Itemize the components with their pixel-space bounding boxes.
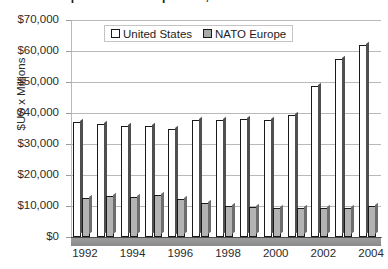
bar-nato-europe — [368, 206, 376, 237]
legend-swatch-icon-united-states — [111, 29, 120, 38]
x-axis-tick-label: 2000 — [254, 247, 298, 259]
bar-group — [97, 20, 121, 237]
x-axis-tick-label: 1996 — [158, 247, 202, 259]
bar-group — [216, 20, 240, 237]
y-axis-tick-label: $60,000 — [0, 44, 59, 56]
bar-united-states — [216, 120, 224, 237]
bar-nato-europe — [297, 208, 305, 237]
x-axis-tick-label: 2002 — [301, 247, 345, 259]
legend-label-nato-europe: NATO Europe — [215, 28, 286, 40]
legend-item-united-states: United States — [111, 28, 192, 40]
bar-united-states — [335, 59, 343, 237]
bar-united-states — [168, 129, 176, 238]
bar-group — [311, 20, 335, 237]
bar-group — [264, 20, 288, 237]
bar-group — [288, 20, 312, 237]
bar-nato-europe — [344, 208, 352, 237]
bar-united-states — [264, 120, 272, 237]
bar-united-states — [121, 126, 129, 237]
legend-item-nato-europe: NATO Europe — [203, 28, 286, 40]
bar-series-container — [71, 20, 381, 237]
chart-floor-base — [71, 237, 382, 246]
bar-united-states — [288, 115, 296, 237]
bar-nato-europe — [201, 203, 209, 237]
legend-swatch-icon-nato-europe — [203, 29, 212, 38]
bar-nato-europe — [249, 207, 257, 237]
bar-nato-europe — [273, 208, 281, 237]
bar-united-states — [359, 45, 367, 237]
bar-nato-europe — [106, 196, 114, 237]
bar-group — [73, 20, 97, 237]
bar-united-states — [97, 124, 105, 237]
bar-united-states — [192, 120, 200, 237]
bar-group — [335, 20, 359, 237]
x-axis-tick-label: 2004 — [349, 247, 388, 259]
y-axis-tick-label: $30,000 — [0, 137, 59, 149]
bar-nato-europe — [177, 199, 185, 237]
bar-group — [192, 20, 216, 237]
y-axis-tick-label: $70,000 — [0, 13, 59, 25]
y-axis-tick-label: $0 — [0, 230, 59, 242]
y-axis-tick-label: $50,000 — [0, 75, 59, 87]
bar-united-states — [145, 126, 153, 237]
bar-united-states — [311, 86, 319, 237]
chart-legend: United States NATO Europe — [104, 25, 293, 42]
bar-united-states — [73, 122, 81, 237]
bar-nato-europe — [320, 208, 328, 237]
bar-group — [359, 20, 383, 237]
bar-united-states — [240, 119, 248, 237]
bar-group — [145, 20, 169, 237]
bar-group — [168, 20, 192, 237]
bar-group — [240, 20, 264, 237]
x-axis-tick-label: 1998 — [206, 247, 250, 259]
bar-chart: $US x Millions $0$10,000$20,000$30,000$4… — [0, 0, 388, 269]
x-axis-tick-label: 1992 — [63, 247, 107, 259]
x-axis-tick-label: 1994 — [111, 247, 155, 259]
y-axis-tick-label: $20,000 — [0, 168, 59, 180]
bar-group — [121, 20, 145, 237]
legend-label-united-states: United States — [123, 28, 192, 40]
y-axis-tick-label: $10,000 — [0, 199, 59, 211]
bar-nato-europe — [154, 195, 162, 237]
x-axis-tick-labels: 1992199419961998200020022004 — [71, 247, 381, 265]
y-axis-tick-label: $40,000 — [0, 106, 59, 118]
bar-nato-europe — [82, 198, 90, 237]
bar-nato-europe — [130, 197, 138, 237]
bar-nato-europe — [225, 206, 233, 237]
